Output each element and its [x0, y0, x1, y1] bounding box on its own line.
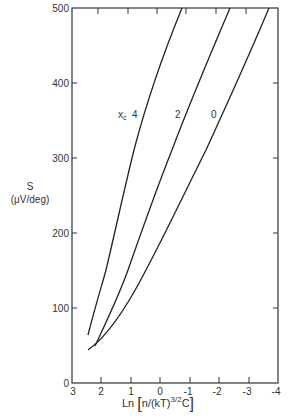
curve-label-2: 2 — [175, 109, 181, 120]
y-tick-500: 500 — [52, 3, 69, 14]
y-tick-100: 100 — [52, 303, 69, 314]
y-tick-400: 400 — [52, 78, 69, 89]
y-tick-0: 0 — [63, 378, 69, 389]
x-tick-3: 3 — [70, 386, 76, 397]
curve-label-0: 0 — [211, 109, 217, 120]
curve-label-4: 4 — [132, 109, 138, 120]
chart-svg: 0 100 200 300 400 500 3 2 1 0 -1 -2 -3 -… — [0, 0, 288, 420]
curve-label-xc: xc — [118, 109, 127, 121]
y-axis-label-unit: (μV/deg) — [4, 193, 56, 206]
plot-frame — [72, 8, 278, 383]
x-tick-neg3: -3 — [243, 386, 252, 397]
x-axis-label: Ln [n/(kT)3/2C] — [122, 395, 194, 413]
x-tick-2: 2 — [98, 386, 104, 397]
y-axis-label-symbol: S — [4, 180, 56, 193]
x-tick-neg4: -4 — [272, 386, 281, 397]
curve-xc-4 — [88, 8, 182, 335]
x-label-prefix: Ln — [122, 397, 134, 409]
curve-xc-0 — [88, 8, 269, 350]
x-label-bracket-close: ] — [190, 395, 194, 412]
y-tick-300: 300 — [52, 153, 69, 164]
y-tick-200: 200 — [52, 228, 69, 239]
x-label-suffix: C — [182, 397, 190, 409]
y-axis-label: S (μV/deg) — [4, 180, 56, 206]
x-label-inner: n/(kT) — [142, 397, 171, 409]
x-ticks — [98, 8, 249, 383]
x-label-exponent: 3/2 — [171, 395, 182, 404]
x-tick-neg2: -2 — [213, 386, 222, 397]
